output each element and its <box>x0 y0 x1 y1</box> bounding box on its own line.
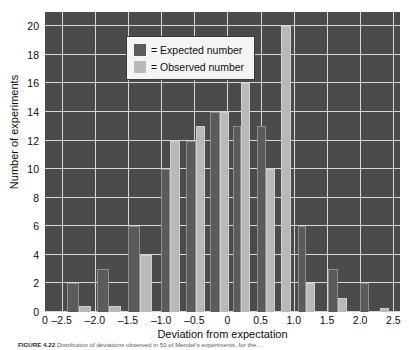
gridline-vertical <box>360 12 361 312</box>
legend-item-observed: = Observed number <box>134 59 244 74</box>
legend-swatch-expected-icon <box>134 44 146 56</box>
figure-caption: FIGURE 4.22 Distribution of deviations o… <box>18 341 398 349</box>
y-tick-label: 14 <box>1 107 39 117</box>
gridline-vertical <box>294 12 295 312</box>
bar-expected <box>97 269 109 312</box>
bar-observed <box>196 126 205 312</box>
y-tick-label: 2 <box>1 278 39 288</box>
bar-expected <box>186 141 195 312</box>
legend-swatch-observed-icon <box>134 61 146 73</box>
bar-expected <box>67 283 79 312</box>
bar-observed <box>380 308 389 312</box>
gridline-vertical <box>327 12 328 312</box>
legend-item-expected: = Expected number <box>134 42 244 57</box>
bar-expected <box>298 226 306 312</box>
bar-expected <box>360 283 369 312</box>
y-tick-label: 10 <box>1 164 39 174</box>
gridline-horizontal <box>45 82 400 83</box>
plot-area: = Expected number = Observed number <box>45 12 400 312</box>
x-tick-label: 2.5 <box>373 314 409 326</box>
bar-observed <box>266 169 275 312</box>
bar-observed <box>281 26 292 312</box>
bar-observed <box>170 141 179 312</box>
y-tick-label: 20 <box>1 21 39 31</box>
y-tick-label: 12 <box>1 136 39 146</box>
legend-label-expected: = Expected number <box>151 44 242 56</box>
y-tick-label: 16 <box>1 78 39 88</box>
bar-expected <box>161 169 170 312</box>
y-tick-label: 4 <box>1 250 39 260</box>
figure-container: 02468101214161820 Number of experiments … <box>0 0 409 350</box>
y-axis-ticks: 02468101214161820 <box>0 12 44 312</box>
bar-observed <box>241 83 250 312</box>
bar-expected <box>233 126 241 312</box>
gridline-vertical <box>393 12 394 312</box>
bar-observed <box>140 255 152 312</box>
gridline-vertical <box>62 12 63 312</box>
bar-expected <box>210 112 219 312</box>
y-tick-label: 8 <box>1 193 39 203</box>
figure-caption-label: FIGURE 4.22 <box>18 341 55 348</box>
figure-caption-text: Distribution of deviations observed in 5… <box>57 341 261 348</box>
bar-observed <box>109 306 121 312</box>
bar-observed <box>79 306 91 312</box>
chart-legend: = Expected number = Observed number <box>126 36 255 80</box>
gridline-vertical <box>95 12 96 312</box>
bar-expected <box>328 269 337 312</box>
gridline-horizontal <box>45 25 400 26</box>
bar-observed <box>338 298 347 312</box>
legend-label-observed: = Observed number <box>151 61 244 73</box>
bar-expected <box>128 226 140 312</box>
y-tick-label: 18 <box>1 50 39 60</box>
bar-observed <box>220 112 229 312</box>
y-axis-label: Number of experiments <box>8 32 20 232</box>
bar-expected <box>257 126 266 312</box>
y-tick-label: 6 <box>1 221 39 231</box>
x-axis-label: Deviation from expectation <box>45 328 400 340</box>
bar-observed <box>306 283 315 312</box>
